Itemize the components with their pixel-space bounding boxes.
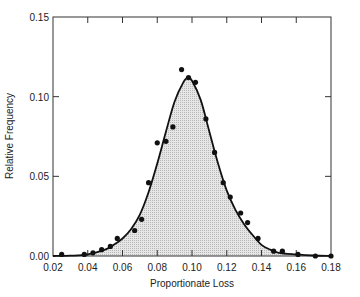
data-point: [238, 210, 243, 215]
x-tick-label: 0.06: [113, 262, 133, 273]
data-point: [203, 116, 208, 121]
data-point: [82, 252, 87, 257]
data-point: [90, 250, 95, 255]
data-point: [328, 253, 333, 258]
data-point: [115, 236, 120, 241]
data-point: [139, 217, 144, 222]
x-axis-title: Proportionate Loss: [150, 278, 234, 289]
data-point: [280, 249, 285, 254]
data-point: [132, 228, 137, 233]
x-tick-label: 0.12: [217, 262, 237, 273]
data-point: [99, 247, 104, 252]
data-point: [193, 80, 198, 85]
data-point: [313, 253, 318, 258]
data-point: [179, 67, 184, 72]
data-point: [146, 180, 151, 185]
x-tick-label: 0.04: [78, 262, 98, 273]
data-point: [221, 180, 226, 185]
data-point: [295, 252, 300, 257]
x-tick-label: 0.02: [43, 262, 63, 273]
data-point: [271, 249, 276, 254]
data-point: [163, 139, 168, 144]
density-chart: 0.020.040.060.080.100.120.140.160.180.00…: [0, 0, 360, 297]
x-tick-label: 0.14: [252, 262, 272, 273]
y-tick-label: 0.05: [30, 171, 50, 182]
data-point: [255, 236, 260, 241]
y-tick-label: 0.10: [30, 92, 50, 103]
x-tick-label: 0.18: [321, 262, 341, 273]
density-fill: [53, 77, 331, 256]
data-point: [108, 244, 113, 249]
data-point: [245, 220, 250, 225]
data-point: [212, 150, 217, 155]
y-tick-label: 0.15: [30, 12, 50, 23]
y-axis-title: Relative Frequency: [4, 93, 15, 179]
data-point: [170, 124, 175, 129]
x-tick-label: 0.08: [148, 262, 168, 273]
y-tick-label: 0.00: [30, 251, 50, 262]
x-tick-label: 0.16: [287, 262, 307, 273]
x-tick-label: 0.10: [182, 262, 202, 273]
data-point: [59, 252, 64, 257]
data-point: [228, 194, 233, 199]
data-point: [186, 75, 191, 80]
data-point: [155, 140, 160, 145]
